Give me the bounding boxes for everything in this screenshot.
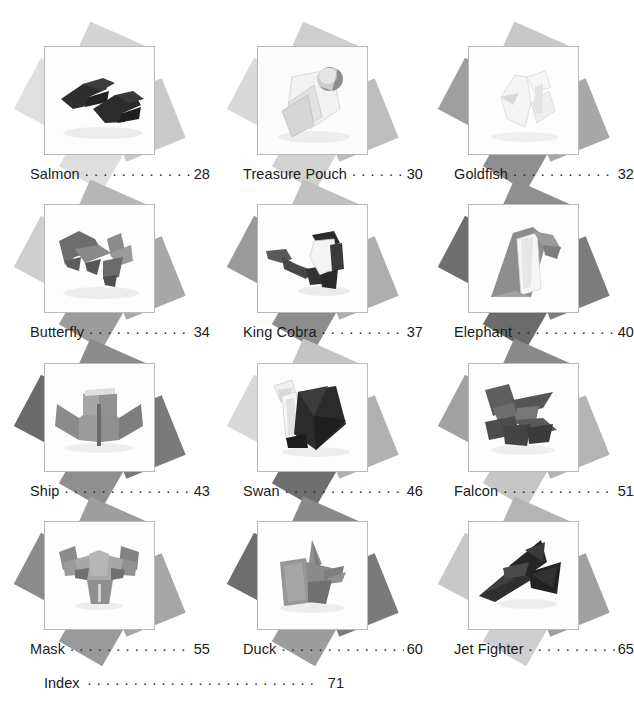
index-entry[interactable]: Index 71 <box>44 673 344 697</box>
entry-artwork <box>243 46 423 168</box>
toc-entry[interactable]: Ship 43 <box>30 363 210 523</box>
entry-caption[interactable]: Ship 43 <box>30 481 210 503</box>
entry-leader-dots <box>517 322 615 337</box>
treasure-pouch-origami-photo <box>258 47 367 154</box>
entry-page-number: 40 <box>618 324 634 340</box>
photo-frame[interactable] <box>44 46 155 155</box>
entry-caption[interactable]: Goldfish 32 <box>454 164 634 186</box>
entry-page-number: 32 <box>618 166 634 182</box>
photo-frame[interactable] <box>468 46 579 155</box>
swan-origami-photo <box>258 364 367 471</box>
entry-caption[interactable]: Mask 55 <box>30 639 210 661</box>
photo-frame[interactable] <box>257 46 368 155</box>
entry-title: Swan <box>243 483 280 499</box>
toc-entry[interactable]: Falcon 51 <box>454 363 634 523</box>
toc-entry[interactable]: Butterfly 34 <box>30 204 210 364</box>
entry-title: Jet Fighter <box>454 641 524 657</box>
ship-origami-photo <box>45 364 154 471</box>
entry-caption[interactable]: Elephant 40 <box>454 322 634 344</box>
entry-page-number: 28 <box>194 166 210 182</box>
toc-entry[interactable]: Duck 60 <box>243 521 423 681</box>
entry-page-number: 34 <box>194 324 210 340</box>
toc-entry[interactable]: Swan 46 <box>243 363 423 523</box>
entry-title: Ship <box>30 483 59 499</box>
entry-caption[interactable]: Jet Fighter 65 <box>454 639 634 661</box>
entry-page-number: 60 <box>407 641 423 657</box>
photo-frame[interactable] <box>257 363 368 472</box>
entry-title: Butterfly <box>30 324 84 340</box>
entry-title: Salmon <box>30 166 80 182</box>
entry-leader-dots <box>281 639 403 654</box>
entry-artwork <box>30 204 210 326</box>
entry-page-number: 46 <box>407 483 423 499</box>
photo-frame[interactable] <box>468 204 579 313</box>
butterfly-origami-photo <box>45 205 154 312</box>
index-label: Index <box>44 675 79 691</box>
salmon-origami-photo <box>45 47 154 154</box>
entry-caption[interactable]: Salmon 28 <box>30 164 210 186</box>
king-cobra-origami-photo <box>258 205 367 312</box>
entry-caption[interactable]: Falcon 51 <box>454 481 634 503</box>
duck-origami-photo <box>258 522 367 629</box>
photo-frame[interactable] <box>257 521 368 630</box>
entry-page-number: 30 <box>407 166 423 182</box>
photo-frame[interactable] <box>44 363 155 472</box>
entry-artwork <box>454 521 634 643</box>
entry-leader-dots <box>89 322 191 337</box>
entry-title: Goldfish <box>454 166 508 182</box>
toc-entry[interactable]: Mask 55 <box>30 521 210 681</box>
photo-frame[interactable] <box>257 204 368 313</box>
toc-entry[interactable]: Salmon 28 <box>30 46 210 206</box>
entry-artwork <box>454 204 634 326</box>
entry-leader-dots <box>85 164 191 179</box>
photo-frame[interactable] <box>468 521 579 630</box>
entry-page-number: 51 <box>618 483 634 499</box>
jet-fighter-origami-photo <box>469 522 578 629</box>
entry-artwork <box>243 204 423 326</box>
entry-caption[interactable]: Butterfly 34 <box>30 322 210 344</box>
entry-artwork <box>30 363 210 485</box>
toc-entry[interactable]: King Cobra 37 <box>243 204 423 364</box>
entry-leader-dots <box>352 164 404 179</box>
index-leader-dots <box>87 673 323 688</box>
index-page-number: 71 <box>328 675 344 691</box>
entry-page-number: 43 <box>194 483 210 499</box>
entry-artwork <box>454 46 634 168</box>
entry-leader-dots <box>70 639 191 654</box>
entry-page-number: 37 <box>407 324 423 340</box>
entry-caption[interactable]: Duck 60 <box>243 639 423 661</box>
photo-frame[interactable] <box>44 204 155 313</box>
photo-frame[interactable] <box>468 363 579 472</box>
entry-leader-dots <box>513 164 615 179</box>
entry-leader-dots <box>529 639 615 654</box>
entry-caption[interactable]: Swan 46 <box>243 481 423 503</box>
goldfish-origami-photo <box>469 47 578 154</box>
elephant-origami-photo <box>469 205 578 312</box>
entry-leader-dots <box>285 481 404 496</box>
entry-artwork <box>243 521 423 643</box>
entry-page-number: 65 <box>618 641 634 657</box>
toc-entry[interactable]: Jet Fighter 65 <box>454 521 634 681</box>
entry-leader-dots <box>322 322 404 337</box>
entry-leader-dots <box>503 481 615 496</box>
entry-artwork <box>30 521 210 643</box>
toc-entry[interactable]: Goldfish 32 <box>454 46 634 206</box>
entry-artwork <box>454 363 634 485</box>
mask-origami-photo <box>45 522 154 629</box>
entry-caption[interactable]: King Cobra 37 <box>243 322 423 344</box>
entry-title: Elephant <box>454 324 512 340</box>
toc-entry[interactable]: Elephant 40 <box>454 204 634 364</box>
entry-leader-dots <box>64 481 190 496</box>
entry-artwork <box>243 363 423 485</box>
photo-frame[interactable] <box>44 521 155 630</box>
entry-title: Falcon <box>454 483 498 499</box>
falcon-origami-photo <box>469 364 578 471</box>
toc-entry[interactable]: Treasure Pouch 30 <box>243 46 423 206</box>
entry-title: Duck <box>243 641 276 657</box>
entry-page-number: 55 <box>194 641 210 657</box>
entry-title: King Cobra <box>243 324 317 340</box>
entry-title: Mask <box>30 641 65 657</box>
entry-caption[interactable]: Treasure Pouch 30 <box>243 164 423 186</box>
entry-artwork <box>30 46 210 168</box>
